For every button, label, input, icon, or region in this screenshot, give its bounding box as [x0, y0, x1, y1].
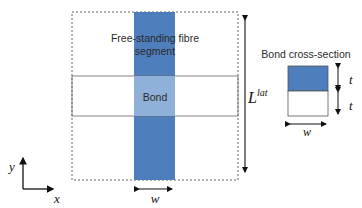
- y-axis-label: y: [7, 159, 15, 174]
- thickness-label-top: t: [349, 72, 353, 87]
- fibre-label-line2: segment: [135, 45, 175, 57]
- fibre-bond-diagram: Free-standing fibre segment Bond Llat w …: [0, 0, 362, 208]
- cross-section-width-label: w: [303, 125, 311, 139]
- cross-section-bond: [288, 91, 328, 116]
- width-label: w: [151, 191, 160, 206]
- fibre-label-line1: Free-standing fibre: [111, 32, 199, 44]
- thickness-label-bottom: t: [349, 98, 353, 113]
- length-label: Llat: [247, 87, 268, 106]
- cross-section-fibre: [288, 66, 328, 91]
- cross-section-title: Bond cross-section: [261, 48, 350, 60]
- bond-label: Bond: [143, 91, 168, 103]
- x-axis-label: x: [53, 191, 60, 206]
